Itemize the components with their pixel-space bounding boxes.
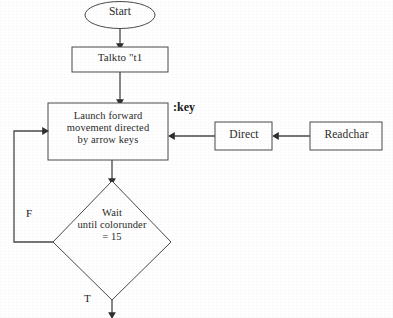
edge-wait-false-loop xyxy=(14,131,53,242)
flowchart-graphics xyxy=(0,0,393,318)
node-direct-label: Direct xyxy=(216,128,272,141)
edge-label-key: :key xyxy=(173,100,195,115)
node-readchar-label: Readchar xyxy=(311,128,382,141)
node-talkto-label: Talkto "t1 xyxy=(72,51,168,63)
node-wait-label: Wait until colorunder = 15 xyxy=(52,207,172,242)
edge-label-false: F xyxy=(26,207,32,219)
node-start-label: Start xyxy=(85,5,155,18)
node-launch-label: Launch forward movement directed by arro… xyxy=(49,110,167,145)
edge-label-true: T xyxy=(84,292,91,304)
flowchart-canvas: Start Talkto "t1 Launch forward movement… xyxy=(0,0,393,318)
